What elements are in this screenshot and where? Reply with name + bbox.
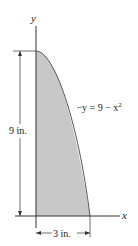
height-dimension-label: 9 in. [9, 125, 27, 136]
y-axis-label: y [30, 12, 36, 24]
arrow-right-icon [85, 231, 90, 235]
curve-equation-text: y = 9 − x [82, 102, 118, 113]
shaded-region [36, 51, 90, 216]
curve-equation: y = 9 − x2 [82, 101, 122, 113]
width-dimension-label: 3 in. [53, 228, 71, 239]
arrow-down-icon [18, 211, 22, 216]
arrow-up-icon [18, 51, 22, 56]
x-axis-label: x [121, 209, 127, 221]
area-diagram: y x y = 9 − x2 9 in. 3 in. [0, 0, 138, 246]
arrow-left-icon [36, 231, 41, 235]
curve-equation-exponent: 2 [118, 101, 122, 109]
